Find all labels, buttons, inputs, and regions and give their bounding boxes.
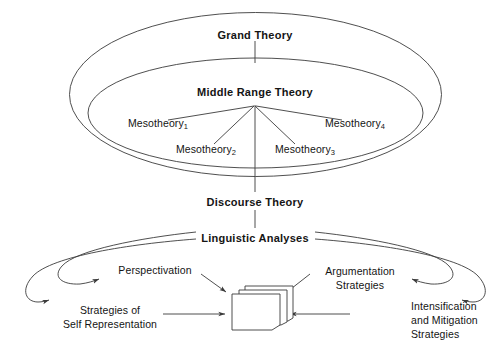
label-intensification-mitigation-strategies: Intensification and Mitigation Strategie… — [411, 299, 502, 342]
label-mesotheory-3: Mesotheory3 — [275, 143, 335, 156]
diagram-canvas: Grand Theory Middle Range Theory Mesothe… — [0, 0, 502, 361]
mesotheory-3-subscript: 3 — [331, 148, 335, 157]
label-perspectivation: Perspectivation — [118, 264, 191, 276]
arrow-perspectivation-to-documents — [201, 274, 226, 292]
mesotheory-4-subscript: 4 — [381, 122, 385, 131]
mesotheory-1-base: Mesotheory — [128, 117, 184, 129]
label-mesotheory-4: Mesotheory4 — [325, 117, 385, 130]
document-stack — [232, 286, 293, 330]
label-middle-range-theory: Middle Range Theory — [197, 86, 313, 99]
label-argumentation-strategies: Argumentation Strategies — [300, 264, 420, 292]
mesotheory-2-base: Mesotheory — [176, 143, 232, 155]
inner-ellipse-middle-range-theory — [88, 58, 423, 168]
label-mesotheory-1: Mesotheory1 — [128, 117, 188, 130]
intensification-line-2: and Mitigation — [411, 313, 502, 327]
intensification-line-1: Intensification — [411, 299, 502, 313]
argumentation-line-2: Strategies — [300, 278, 420, 292]
mesotheory-1-subscript: 1 — [184, 122, 188, 131]
intensification-line-3: Strategies — [411, 327, 502, 341]
label-strategies-self-representation: Strategies of Self Representation — [45, 303, 175, 331]
mesotheory-3-base: Mesotheory — [275, 143, 331, 155]
argumentation-line-1: Argumentation — [300, 264, 420, 278]
label-linguistic-analyses: Linguistic Analyses — [201, 232, 309, 245]
label-grand-theory: Grand Theory — [217, 29, 292, 42]
mesotheory-2-subscript: 2 — [232, 148, 236, 157]
self-representation-line-1: Strategies of — [45, 303, 175, 317]
self-representation-line-2: Self Representation — [45, 317, 175, 331]
mesotheory-4-base: Mesotheory — [325, 117, 381, 129]
label-discourse-theory: Discourse Theory — [207, 196, 304, 209]
label-mesotheory-2: Mesotheory2 — [176, 143, 236, 156]
document-page-front — [232, 294, 280, 330]
